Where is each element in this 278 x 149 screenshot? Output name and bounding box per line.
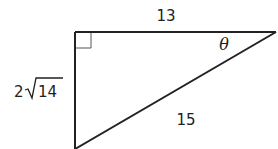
angle-theta-label: θ — [219, 35, 229, 54]
triangle-diagram: 13 θ 15 2 14 — [0, 0, 278, 149]
right-angle-marker — [76, 33, 91, 48]
left-side-label: 2 14 — [14, 78, 63, 101]
top-side-label: 13 — [156, 7, 175, 25]
left-side-radicand: 14 — [38, 83, 57, 101]
hypotenuse — [75, 32, 276, 149]
left-side-coefficient: 2 — [14, 83, 24, 101]
hypotenuse-label: 15 — [176, 111, 195, 129]
